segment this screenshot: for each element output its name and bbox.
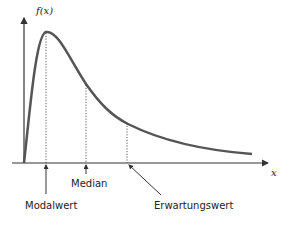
x-axis-label: x xyxy=(271,167,277,178)
mean-label: Erwartungswert xyxy=(154,200,233,211)
density-diagram: f(x) x Median Modalwert Erwartungswert xyxy=(0,0,289,226)
mean-arrow xyxy=(129,165,161,195)
median-label: Median xyxy=(71,178,107,189)
y-axis-label: f(x) xyxy=(35,5,53,16)
density-curve xyxy=(24,32,252,163)
mode-label: Modalwert xyxy=(25,200,77,211)
